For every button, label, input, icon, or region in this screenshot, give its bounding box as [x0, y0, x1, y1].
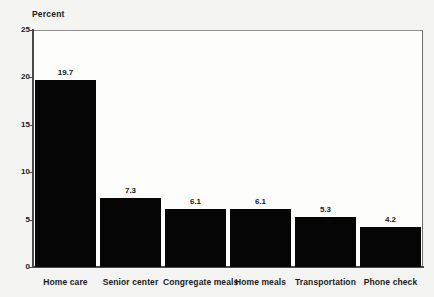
bar-group: 7.3 [100, 30, 161, 267]
x-category-label: Senior center [98, 277, 163, 287]
bar-group: 6.1 [230, 30, 291, 267]
bar-group: 5.3 [295, 30, 356, 267]
bar-group: 4.2 [360, 30, 421, 267]
x-category-label: Home care [33, 277, 98, 287]
bar-group: 6.1 [165, 30, 226, 267]
x-category-label: Phone check [358, 277, 423, 287]
bar [295, 217, 356, 267]
bar-group: 19.7 [35, 30, 96, 267]
bar-value-label: 6.1 [165, 197, 226, 206]
bar [360, 227, 421, 267]
bar [230, 209, 291, 267]
bar [165, 209, 226, 267]
x-axis-category-labels: Home careSenior centerCongregate mealsHo… [33, 277, 423, 293]
y-tick-mark [29, 267, 33, 268]
bar-value-label: 6.1 [230, 197, 291, 206]
y-axis-ticks: 0510152025 [0, 0, 30, 297]
bar-value-label: 5.3 [295, 205, 356, 214]
bar-value-label: 4.2 [360, 215, 421, 224]
bar-value-label: 19.7 [35, 68, 96, 77]
x-category-label: Home meals [228, 277, 293, 287]
bars-layer: 19.77.36.16.15.34.2 [33, 30, 423, 267]
bar-value-label: 7.3 [100, 186, 161, 195]
bar-chart: Percent 0510152025 19.77.36.16.15.34.2 H… [0, 0, 434, 297]
y-axis-title: Percent [32, 9, 65, 19]
bar [100, 198, 161, 267]
x-category-label: Congregate meals [163, 277, 228, 287]
bar [35, 80, 96, 267]
x-category-label: Transportation [293, 277, 358, 287]
